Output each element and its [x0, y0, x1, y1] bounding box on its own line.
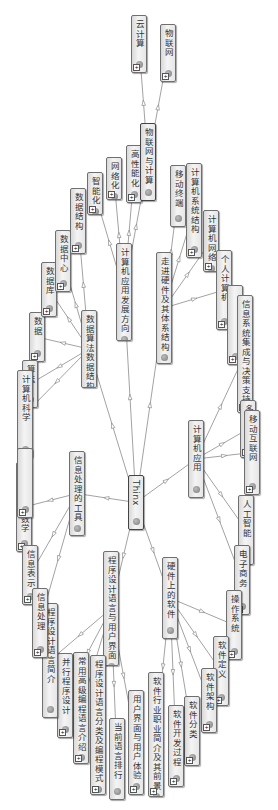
- topic-label: 程序设计语言与用户界面: [106, 556, 116, 661]
- topic-node[interactable]: 数据中心+: [55, 230, 71, 292]
- arrowhead-icon: [112, 681, 116, 686]
- topic-node[interactable]: 网络化+: [106, 157, 122, 200]
- topic-label: 网络化: [109, 162, 119, 191]
- expand-toggle-icon[interactable]: +: [228, 651, 235, 658]
- expand-toggle-icon[interactable]: +: [43, 308, 50, 315]
- topic-node[interactable]: 用户界面与用户体验+: [128, 690, 144, 795]
- expand-toggle-icon[interactable]: +: [133, 64, 140, 71]
- expand-toggle-icon[interactable]: +: [128, 194, 135, 201]
- topic-label: 高性能化: [129, 150, 139, 189]
- topic-node[interactable]: 软件开发过程+: [168, 705, 184, 787]
- topic-node[interactable]: 计算机系统结构+: [186, 163, 202, 258]
- topic-node[interactable]: 智能化+: [87, 172, 103, 215]
- topic-node[interactable]: 计算机应用: [188, 420, 204, 498]
- expand-toggle-icon[interactable]: +: [24, 596, 31, 603]
- topic-bullet-icon: [193, 486, 200, 493]
- topic-label: 并行程序设计: [60, 658, 70, 724]
- expand-toggle-icon[interactable]: +: [218, 321, 225, 328]
- topic-label: 移动互联网: [247, 415, 257, 481]
- topic-label: 软件定义: [216, 641, 226, 692]
- topic-node[interactable]: 软件分类+: [184, 696, 200, 766]
- topic-label: 信息处理: [35, 593, 45, 644]
- topic-label: 物联网与计算: [143, 128, 153, 187]
- expand-toggle-icon[interactable]: +: [229, 356, 236, 363]
- topic-label: 软件开发过程: [171, 710, 181, 773]
- expand-toggle-icon[interactable]: +: [203, 724, 210, 731]
- arrowhead-icon: [193, 632, 198, 637]
- arrowhead-icon: [219, 443, 225, 447]
- arrowhead-icon: [52, 531, 56, 537]
- topic-node[interactable]: 移动终端: [170, 165, 186, 227]
- topic-node[interactable]: 信息处理+: [32, 588, 48, 658]
- expand-toggle-icon[interactable]: +: [170, 778, 177, 785]
- topic-bullet-icon: [121, 336, 128, 342]
- topic-node[interactable]: 信息系统集成与决策支持+: [237, 295, 253, 413]
- topic-bullet-icon: [167, 627, 174, 634]
- topic-label: 硬件上的软件: [165, 562, 175, 625]
- expand-toggle-icon[interactable]: +: [72, 245, 79, 252]
- topic-node[interactable]: 计算机应用发展方向: [116, 243, 132, 341]
- topic-node[interactable]: 硬件上的软件: [162, 557, 178, 639]
- topic-label: 物联网: [163, 29, 173, 68]
- arrowhead-icon: [216, 517, 220, 523]
- expand-toggle-icon[interactable]: +: [150, 788, 157, 795]
- topic-label: 软件行业职业简介及其前景: [151, 677, 161, 791]
- expand-toggle-icon[interactable]: +: [75, 755, 82, 762]
- expand-toggle-icon[interactable]: +: [89, 206, 96, 213]
- topic-label: 智能化: [90, 177, 100, 206]
- arrowhead-icon: [48, 498, 54, 501]
- topic-node[interactable]: 走进硬件及其体系结构: [156, 252, 172, 364]
- arrowhead-icon: [57, 555, 60, 561]
- expand-toggle-icon[interactable]: +: [108, 191, 115, 198]
- topic-node[interactable]: 云计算+: [131, 15, 147, 73]
- topic-node[interactable]: 当前语言排行: [109, 718, 125, 800]
- topic-node[interactable]: 数据结构+: [70, 188, 86, 254]
- arrowhead-icon: [191, 298, 197, 301]
- topic-node[interactable]: +: [17, 448, 33, 518]
- expand-toggle-icon[interactable]: +: [34, 649, 41, 656]
- root-node[interactable]: Thinx: [128, 475, 144, 530]
- topic-label: 人工智能: [241, 500, 251, 551]
- topic-node[interactable]: 移动互联网+: [244, 410, 260, 495]
- arrowhead-icon: [221, 454, 227, 458]
- topic-node[interactable]: 数据+: [29, 312, 45, 362]
- topic-node[interactable]: 数据算法数据结构: [81, 310, 97, 388]
- topic-label: 云计算: [134, 20, 144, 59]
- expand-toggle-icon[interactable]: +: [57, 283, 64, 290]
- topic-bullet-icon: [74, 525, 81, 532]
- topic-bullet-icon: [47, 706, 54, 713]
- topic-node[interactable]: 常用高级编程语言介绍+: [73, 652, 89, 764]
- expand-toggle-icon[interactable]: +: [31, 353, 38, 360]
- topic-node[interactable]: 软件架构+: [201, 668, 217, 733]
- expand-toggle-icon[interactable]: +: [59, 729, 66, 736]
- arrowhead-icon: [75, 302, 78, 308]
- arrowhead-icon: [148, 402, 152, 408]
- arrowhead-icon: [128, 394, 132, 399]
- topic-node[interactable]: 信息处理的工具: [69, 451, 85, 536]
- arrowhead-icon: [185, 272, 190, 277]
- expand-toggle-icon[interactable]: +: [186, 757, 193, 764]
- expand-toggle-icon[interactable]: +: [246, 486, 253, 493]
- expand-toggle-icon[interactable]: +: [162, 73, 169, 80]
- topic-bullet-icon: [114, 788, 121, 795]
- topic-bullet-icon: [161, 354, 168, 361]
- arrowhead-icon: [57, 364, 63, 368]
- arrowhead-icon: [156, 105, 160, 111]
- arrowhead-icon: [161, 664, 165, 670]
- expand-toggle-icon[interactable]: +: [19, 509, 26, 516]
- topic-node[interactable]: 软件行业职业简介及其前景+: [148, 672, 164, 797]
- topic-label: 数据: [32, 317, 42, 348]
- topic-node[interactable]: 程序设计语言与用户界面: [103, 551, 119, 666]
- expand-toggle-icon[interactable]: +: [92, 786, 99, 793]
- topic-node[interactable]: 程序设计语言分类及编程模式+: [90, 655, 106, 795]
- expand-toggle-icon[interactable]: +: [130, 786, 137, 793]
- topic-node[interactable]: 并行程序设计+: [57, 653, 73, 738]
- arrowhead-icon: [82, 282, 86, 288]
- expand-toggle-icon[interactable]: +: [205, 263, 212, 270]
- topic-bullet-icon: [145, 189, 152, 196]
- topic-node[interactable]: 物联网+: [160, 24, 176, 82]
- topic-node[interactable]: 物联网与计算: [140, 123, 156, 201]
- expand-toggle-icon[interactable]: +: [188, 249, 195, 256]
- arrowhead-icon: [111, 423, 114, 429]
- topic-node[interactable]: 计算机科学+: [17, 370, 33, 458]
